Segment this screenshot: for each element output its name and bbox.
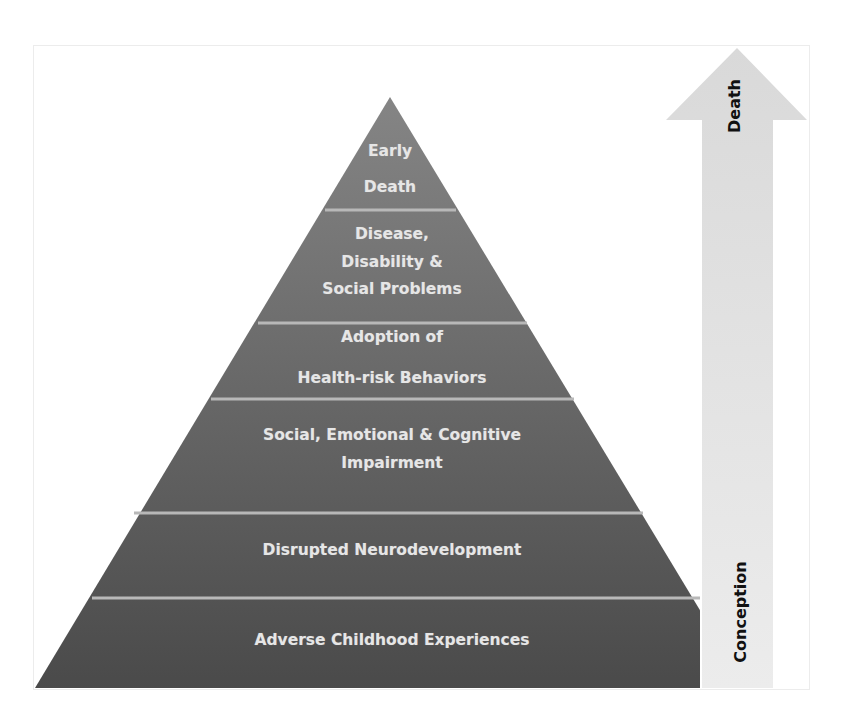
- layer-disease-line3: Social Problems: [322, 282, 461, 298]
- layer-disease-line2: Disability &: [341, 255, 442, 271]
- layer-impairment-line1: Social, Emotional & Cognitive: [263, 428, 521, 444]
- layer-neurodevelopment: Disrupted Neurodevelopment: [263, 543, 522, 559]
- layer-risk-line2: Health-risk Behaviors: [298, 371, 487, 387]
- layer-adverse-childhood-experiences: Adverse Childhood Experiences: [254, 633, 529, 649]
- layer-early-death-line1: Early: [368, 144, 412, 160]
- arrow-label-conception: Conception: [733, 561, 749, 662]
- pyramid-diagram: [0, 0, 846, 727]
- layer-risk-line1: Adoption of: [341, 330, 443, 346]
- layer-disease-line1: Disease,: [355, 227, 429, 243]
- layer-impairment-line2: Impairment: [341, 456, 443, 472]
- layer-early-death-line2: Death: [364, 180, 416, 196]
- arrow-label-death: Death: [727, 79, 743, 133]
